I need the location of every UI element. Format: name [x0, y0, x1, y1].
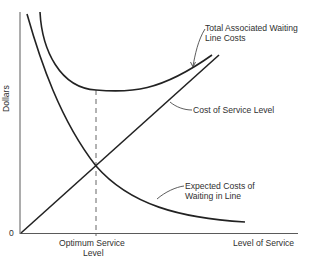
y-axis-label: Dollars — [1, 85, 11, 112]
total-cost-curve — [40, 12, 212, 91]
total-cost-label-line2: Line Costs — [205, 33, 246, 43]
service-leader-line — [170, 102, 192, 110]
chart-canvas — [0, 0, 311, 260]
waiting-cost-label-line1: Expected Costs of — [185, 181, 255, 191]
total-cost-label-line1: Total Associated Waiting — [205, 23, 298, 33]
optimum-label-line2: Level — [83, 248, 104, 258]
optimum-label-line1: Optimum Service — [59, 238, 125, 248]
service-cost-line — [21, 55, 219, 233]
waiting-cost-label-line2: Waiting in Line — [185, 191, 241, 201]
origin-label: 0 — [9, 228, 14, 238]
waiting-leader-line — [157, 186, 184, 199]
x-axis-label: Level of Service — [233, 238, 294, 248]
service-cost-label: Cost of Service Level — [193, 105, 274, 115]
